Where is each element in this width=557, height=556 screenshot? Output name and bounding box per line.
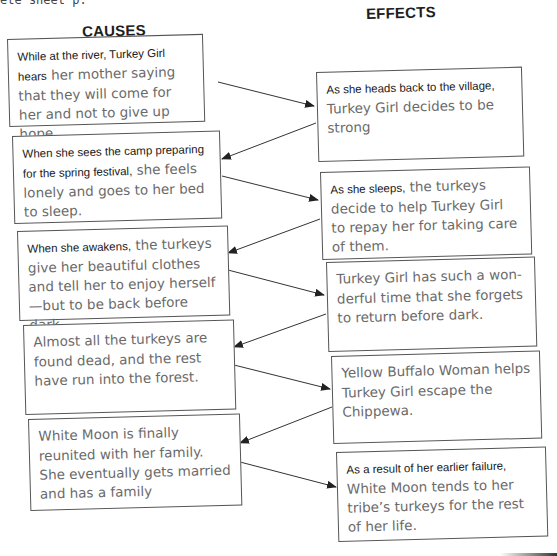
effect-text: White Moon tends to her tribe’s turkeys …: [347, 476, 524, 534]
effect-box-1: As she heads back to the village, Turkey…: [316, 67, 524, 162]
cause-box-5: White Moon is finally reunited with her …: [28, 413, 242, 511]
effect-box-5: As a result of her earlier failure, Whit…: [336, 447, 548, 542]
effect-lead: As a result of her earlier failure,: [346, 460, 506, 476]
cause-lead: When she awakens,: [27, 240, 131, 255]
effect-lead: As she sleeps,: [330, 182, 405, 196]
effect-lead: As she heads back to the village,: [326, 79, 494, 95]
cause-box-4: Almost all the turkeys are found dead, a…: [23, 319, 236, 414]
cause-box-2: When she sees the camp preparing for the…: [12, 131, 222, 224]
effect-box-2: As she sleeps, the turkeys decide to hel…: [320, 167, 532, 260]
effect-box-3: Turkey Girl has such a won-derful time t…: [326, 257, 537, 352]
cause-box-3: When she awakens, the turkeys give her b…: [17, 225, 230, 320]
effect-text: Turkey Girl has such a won-derful time t…: [336, 266, 523, 326]
effect-box-4: Yellow Buffalo Woman helps Turkey Girl e…: [331, 351, 542, 444]
cause-text: White Moon is finally reunited with her …: [38, 424, 231, 502]
effect-text: Turkey Girl decides to be strong: [327, 96, 494, 135]
effect-text: Yellow Buffalo Woman helps Turkey Girl e…: [341, 360, 530, 420]
cause-box-1: While at the river, Turkey Girl hears he…: [7, 34, 205, 127]
cause-text: Almost all the turkeys are found dead, a…: [33, 329, 207, 389]
